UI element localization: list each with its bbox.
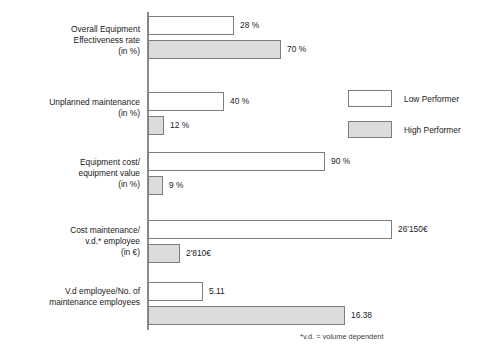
bar-high-performer[interactable] (148, 40, 281, 59)
group-label: Overall Equipment Effectiveness rate (in… (6, 24, 140, 58)
bar-value-low-performer: 26'150€ (398, 220, 428, 239)
group-label: V.d employee/No. of maintenance employee… (6, 286, 140, 308)
group-label: Unplanned maintenance (in %) (6, 97, 140, 119)
legend-swatch-icon (348, 90, 392, 107)
bar-value-high-performer: 2'810€ (186, 244, 211, 263)
benchmark-bar-chart: Overall Equipment Effectiveness rate (in… (0, 0, 486, 358)
bar-low-performer[interactable] (148, 152, 325, 171)
group-label: Equipment cost/ equipment value (in %) (6, 157, 140, 191)
legend-label: High Performer (404, 125, 461, 135)
chart-footnote: *v.d. = volume dependent (300, 332, 383, 341)
bar-value-high-performer: 9 % (169, 176, 183, 195)
bar-high-performer[interactable] (148, 116, 164, 135)
bar-low-performer[interactable] (148, 16, 234, 35)
bar-low-performer[interactable] (148, 92, 224, 111)
legend-swatch-icon (348, 121, 392, 138)
legend-item-high-performer[interactable]: High Performer (348, 121, 461, 138)
bar-value-low-performer: 28 % (240, 16, 259, 35)
bar-value-low-performer: 90 % (331, 152, 350, 171)
bar-value-low-performer: 5.11 (209, 282, 225, 301)
bar-value-high-performer: 12 % (170, 116, 189, 135)
bar-high-performer[interactable] (148, 176, 163, 195)
bar-value-high-performer: 70 % (287, 40, 306, 59)
bar-value-high-performer: 16.38 (351, 306, 372, 325)
group-label: Cost maintenance/ v.d.* employee (in €) (6, 225, 140, 259)
bar-high-performer[interactable] (148, 244, 180, 263)
bar-low-performer[interactable] (148, 282, 203, 301)
bar-low-performer[interactable] (148, 220, 392, 239)
bar-high-performer[interactable] (148, 306, 345, 325)
legend-label: Low Performer (404, 94, 459, 104)
bar-value-low-performer: 40 % (230, 92, 249, 111)
legend-item-low-performer[interactable]: Low Performer (348, 90, 459, 107)
